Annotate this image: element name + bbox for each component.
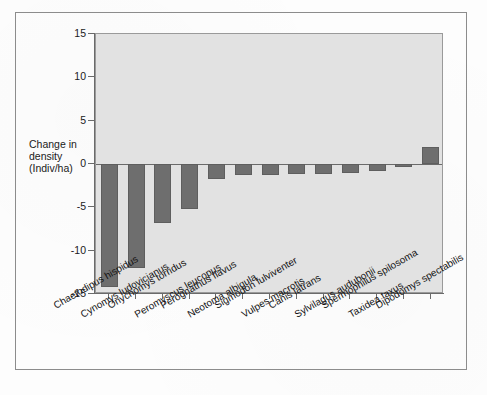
bar-taxidea-taxus bbox=[395, 164, 412, 167]
y-axis-title-line-3: (Indiv/ha) bbox=[29, 162, 95, 174]
bar-neotoma-albigula bbox=[235, 164, 252, 175]
y-axis-tick bbox=[88, 120, 94, 121]
y-axis-title: Change in density (Indiv/ha) bbox=[29, 138, 95, 175]
y-axis-tick-label: 5 bbox=[40, 115, 86, 125]
bar-peromyscus-leucopus bbox=[181, 164, 198, 209]
bar-sigmodon-fulviventer bbox=[262, 164, 279, 175]
plot-area bbox=[95, 33, 443, 293]
bar-canis-latrans bbox=[315, 164, 332, 174]
figure-root: 151050-5-10-15 Change in density (Indiv/… bbox=[0, 0, 487, 395]
bar-sylvilagus-audubonii bbox=[342, 164, 359, 173]
bar-cynomys-ludovicianus bbox=[128, 164, 145, 268]
y-axis-tick bbox=[88, 250, 94, 251]
bar-spermophilus-spilosoma bbox=[369, 164, 386, 171]
y-axis-tick-label: -5 bbox=[40, 201, 86, 211]
y-axis-tick-label: -10 bbox=[40, 245, 86, 255]
y-axis-tick bbox=[88, 76, 94, 77]
y-axis-tick bbox=[88, 206, 94, 207]
x-axis-tick bbox=[430, 294, 431, 299]
plot-bars-container bbox=[96, 34, 442, 292]
y-axis-tick bbox=[88, 293, 94, 294]
y-axis-tick-label: 10 bbox=[40, 71, 86, 81]
bar-vulpes-macrotis bbox=[288, 164, 305, 174]
y-axis-title-line-1: Change in bbox=[29, 138, 95, 150]
y-axis-tick-label: 15 bbox=[40, 28, 86, 38]
y-axis-tick-labels: 151050-5-10-15 bbox=[34, 0, 86, 395]
y-axis-tick bbox=[88, 33, 94, 34]
bar-dipodomys-spectabilis bbox=[422, 147, 439, 164]
bar-onychomys-torridus bbox=[154, 164, 171, 223]
bar-perognathus-flavus bbox=[208, 164, 225, 179]
y-axis-title-line-2: density bbox=[29, 150, 95, 162]
